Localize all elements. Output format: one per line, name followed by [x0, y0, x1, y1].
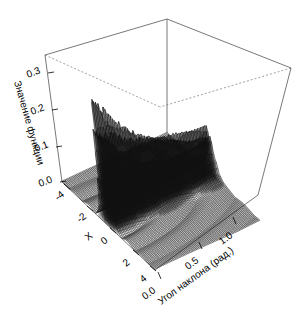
- z-axis: 0.3 0.2 0.1 0.0 Значение функции: [12, 64, 66, 188]
- x-tick-mark-2: [133, 250, 139, 255]
- x-tick-label-1: -2: [74, 210, 88, 224]
- surface-mesh: [62, 99, 260, 269]
- hidden-edge-back-right: [160, 68, 291, 107]
- y-tick-label-0: 0.0: [140, 284, 158, 301]
- z-tick-mark-0.3: [48, 72, 54, 73]
- y-tick-mark-0.0: [158, 272, 161, 279]
- z-axis-title: Значение функции: [12, 80, 47, 167]
- box-right-vertical-edge: [258, 68, 291, 195]
- z-tick-mark-0.2: [52, 109, 58, 110]
- z-tick-label-0: 0.3: [25, 64, 42, 79]
- surface-plot-figure: 0.3 0.2 0.1 0.0 Значение функции -4 -2 0…: [0, 0, 302, 331]
- x-tick-label-3: 2: [120, 256, 132, 268]
- x-tick-label-0: -4: [52, 188, 66, 202]
- box-top-face: [45, 19, 291, 68]
- hidden-edge-back-left: [45, 55, 160, 107]
- x-tick-label-4: 4: [137, 272, 149, 284]
- surface-plot-canvas: 0.3 0.2 0.1 0.0 Значение функции -4 -2 0…: [0, 0, 302, 331]
- x-axis-title: X: [82, 230, 94, 243]
- box-hidden-edges: [45, 55, 291, 107]
- box-left-vertical-edge: [45, 55, 62, 182]
- x-tick-label-2: 0: [98, 234, 110, 246]
- z-tick-label-3: 0.0: [37, 173, 54, 188]
